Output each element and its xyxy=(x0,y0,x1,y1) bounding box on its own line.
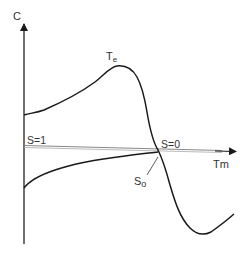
so-label-main: S xyxy=(134,175,141,187)
y-axis-label: C xyxy=(13,10,21,22)
te-label-sub: e xyxy=(113,55,118,64)
x-axis-label: Tm xyxy=(213,158,229,170)
x-axis-arrow xyxy=(215,151,236,152)
so-label-sub: o xyxy=(141,179,146,189)
torque-diagram: C Tm Te S=1 S=0 So xyxy=(0,0,247,253)
slip-zero-label: S=0 xyxy=(161,138,180,150)
slip-one-label: S=1 xyxy=(27,134,46,146)
so-pointer xyxy=(147,157,158,175)
so-label: So xyxy=(134,175,146,189)
te-label: Te xyxy=(106,50,118,64)
